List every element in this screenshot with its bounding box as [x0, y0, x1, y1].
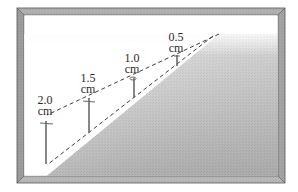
wedge-depth-diagram: 2.0 cm 1.5 cm 1.0 cm 0.5 cm [0, 0, 298, 192]
pin-unit: cm [73, 84, 103, 95]
pin-label-1-5: 1.5 cm [73, 73, 103, 95]
pin-unit: cm [161, 43, 191, 54]
pin-label-1-0: 1.0 cm [117, 53, 147, 75]
scene [25, 16, 278, 176]
pin-unit: cm [117, 64, 147, 75]
top-band [25, 16, 278, 35]
pin-unit: cm [30, 106, 60, 117]
pin-label-2-0: 2.0 cm [30, 95, 60, 117]
pin-label-0-5: 0.5 cm [161, 32, 191, 54]
